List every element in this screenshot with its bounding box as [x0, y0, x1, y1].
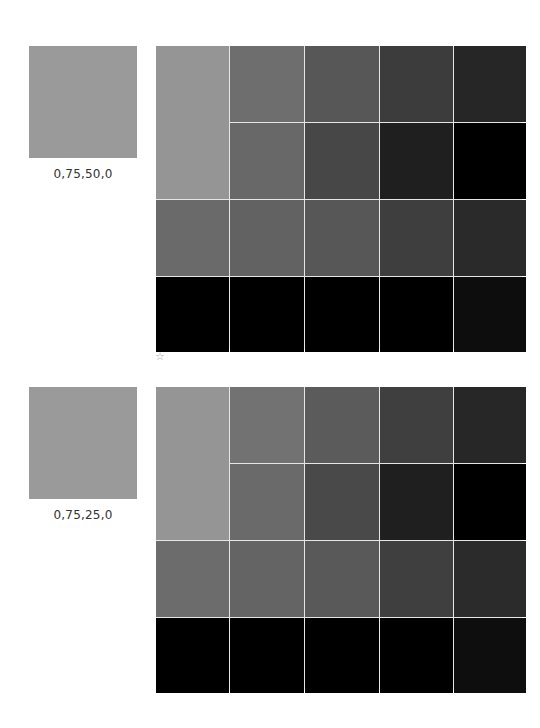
grid-cell — [454, 618, 526, 693]
color-grid — [156, 46, 522, 349]
grid-cell — [230, 46, 304, 122]
swatch-label: 0,75,50,0 — [29, 167, 137, 181]
grid-cell — [454, 200, 526, 276]
grid-cell — [380, 541, 453, 617]
grid-cell — [230, 387, 304, 463]
swatch-label: 0,75,25,0 — [29, 508, 137, 522]
grid-cell — [156, 618, 229, 693]
grid-cell — [305, 200, 379, 276]
grid-cell — [305, 123, 379, 199]
grid-cell — [230, 541, 304, 617]
reference-swatch — [29, 46, 137, 158]
grid-cell-large — [156, 46, 229, 199]
grid-cell — [454, 387, 526, 463]
grid-cell — [380, 464, 453, 540]
grid-cell — [230, 277, 304, 352]
grid-cell — [156, 200, 229, 276]
grid-cell — [305, 387, 379, 463]
grid-cell — [454, 541, 526, 617]
grid-cell — [230, 464, 304, 540]
grid-cell — [380, 618, 453, 693]
grid-cell — [230, 123, 304, 199]
grid-cell — [454, 123, 526, 199]
grid-cell — [305, 464, 379, 540]
grid-cell — [380, 200, 453, 276]
grid-cell — [380, 46, 453, 122]
grid-cell — [454, 464, 526, 540]
grid-cell — [305, 46, 379, 122]
star-icon[interactable]: ☆ — [155, 350, 165, 363]
grid-cell — [305, 277, 379, 352]
grid-cell — [380, 387, 453, 463]
grid-cell — [380, 123, 453, 199]
grid-cell — [230, 200, 304, 276]
grid-cell — [156, 277, 229, 352]
grid-cell — [380, 277, 453, 352]
grid-cell — [454, 277, 526, 352]
grid-cell — [156, 541, 229, 617]
grid-cell — [305, 618, 379, 693]
color-grid — [156, 387, 522, 690]
grid-cell — [305, 541, 379, 617]
grid-cell — [230, 618, 304, 693]
grid-cell — [454, 46, 526, 122]
grid-cell-large — [156, 387, 229, 540]
reference-swatch — [29, 387, 137, 499]
